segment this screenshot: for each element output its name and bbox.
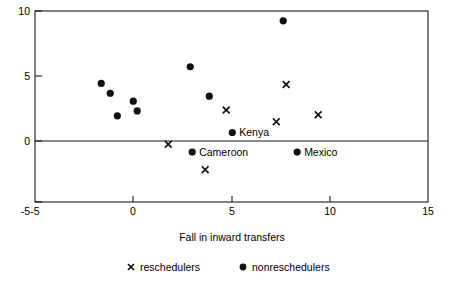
data-point-dot[interactable] xyxy=(187,63,194,70)
data-point-dot[interactable] xyxy=(280,17,287,24)
legend: reschedulers nonreschedulers xyxy=(128,261,330,273)
scatter-plot-figure: 10 5 0 -5 -5 0 5 10 15 KenyaCameroonMexi… xyxy=(0,0,461,283)
x-tick-label-15: 15 xyxy=(422,205,434,217)
data-point-dot[interactable] xyxy=(130,98,137,105)
x-tick-label-minus5: -5 xyxy=(30,205,39,217)
y-axis-ticks xyxy=(35,11,42,202)
point-annotations-layer: KenyaCameroonMexico xyxy=(199,126,337,158)
legend-item-nonreschedulers[interactable]: nonreschedulers xyxy=(240,261,330,273)
legend-label-reschedulers: reschedulers xyxy=(140,261,200,273)
y-tick-label-10: 10 xyxy=(18,5,30,17)
x-marker-icon xyxy=(128,264,134,270)
data-point-dot[interactable] xyxy=(229,129,236,136)
data-point-dot[interactable] xyxy=(189,148,196,155)
x-tick-label-0: 0 xyxy=(130,205,136,217)
data-point-x[interactable] xyxy=(315,111,322,118)
data-point-x[interactable] xyxy=(283,81,290,88)
data-point-dot[interactable] xyxy=(107,90,114,97)
data-point-dot[interactable] xyxy=(294,148,301,155)
data-point-x[interactable] xyxy=(202,166,209,173)
point-label-kenya: Kenya xyxy=(239,126,269,138)
y-tick-label-minus5: -5 xyxy=(21,205,30,217)
x-tick-label-5: 5 xyxy=(229,205,235,217)
y-tick-label-5: 5 xyxy=(24,70,30,82)
point-label-cameroon: Cameroon xyxy=(199,146,248,158)
point-label-mexico: Mexico xyxy=(304,146,337,158)
y-tick-label-0: 0 xyxy=(24,135,30,147)
plot-canvas: 10 5 0 -5 -5 0 5 10 15 KenyaCameroonMexi… xyxy=(0,0,461,283)
legend-label-nonreschedulers: nonreschedulers xyxy=(252,261,330,273)
y-axis-tick-labels: 10 5 0 -5 xyxy=(18,5,30,217)
data-point-dot[interactable] xyxy=(206,93,213,100)
data-point-dot[interactable] xyxy=(98,80,105,87)
data-point-x[interactable] xyxy=(223,107,230,114)
x-axis-tick-labels: -5 0 5 10 15 xyxy=(30,205,434,217)
x-axis-ticks xyxy=(133,196,330,202)
x-axis-title: Fall in inward transfers xyxy=(179,231,285,243)
data-point-dot[interactable] xyxy=(114,112,121,119)
x-tick-label-10: 10 xyxy=(324,205,336,217)
dot-marker-icon xyxy=(240,264,247,271)
legend-item-reschedulers[interactable]: reschedulers xyxy=(128,261,200,273)
data-point-dot[interactable] xyxy=(134,107,141,114)
plot-frame xyxy=(35,11,428,202)
series-nonreschedulers xyxy=(98,17,301,155)
data-point-x[interactable] xyxy=(273,118,280,125)
data-point-x[interactable] xyxy=(165,141,172,148)
